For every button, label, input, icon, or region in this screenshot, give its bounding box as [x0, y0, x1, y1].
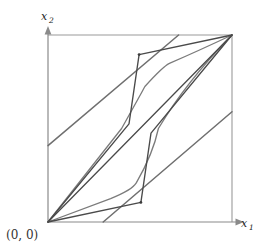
y-axis-label-subscript: 2	[48, 16, 54, 25]
x-axis-label: x	[241, 217, 248, 230]
curve-upper-offset-line	[48, 35, 179, 146]
y-axis-arrowhead	[45, 26, 52, 35]
plot-svg: x 2 x 1 (0, 0)	[0, 0, 266, 249]
axis-labels: x 2 x 1 (0, 0)	[6, 10, 254, 242]
origin-label: (0, 0)	[6, 228, 38, 242]
x-axis-label-subscript: 1	[249, 223, 254, 232]
figure-container: x 2 x 1 (0, 0)	[0, 0, 266, 249]
vertex-marker-lower	[140, 201, 143, 204]
curve-lower-offset-line	[103, 112, 232, 222]
curve-main-diagonal	[48, 35, 232, 222]
y-axis-label: x	[41, 10, 48, 23]
curve-family	[48, 35, 232, 222]
vertex-marker-upper	[138, 53, 141, 56]
